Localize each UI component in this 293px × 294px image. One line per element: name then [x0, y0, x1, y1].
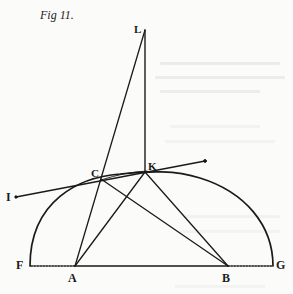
label-F: F [16, 259, 23, 271]
segment-CB [101, 179, 228, 266]
label-I: I [6, 191, 11, 203]
label-G: G [276, 259, 285, 271]
tangent-line-I [16, 161, 205, 197]
figure-title: Fig 11. [40, 8, 74, 23]
label-K: K [148, 161, 157, 172]
segment-LA [75, 30, 145, 266]
label-C: C [91, 168, 99, 179]
label-L: L [134, 24, 141, 35]
arc-FG [30, 172, 273, 266]
label-A: A [68, 272, 77, 284]
tangent-end-dot [204, 160, 207, 163]
figure-drawing [0, 0, 293, 294]
point-I-dot [15, 196, 17, 198]
segment-KA [75, 172, 145, 266]
segment-KB [145, 172, 228, 266]
label-B: B [222, 272, 230, 284]
geometric-figure: Fig 11. L C K I F A B G [0, 0, 293, 294]
